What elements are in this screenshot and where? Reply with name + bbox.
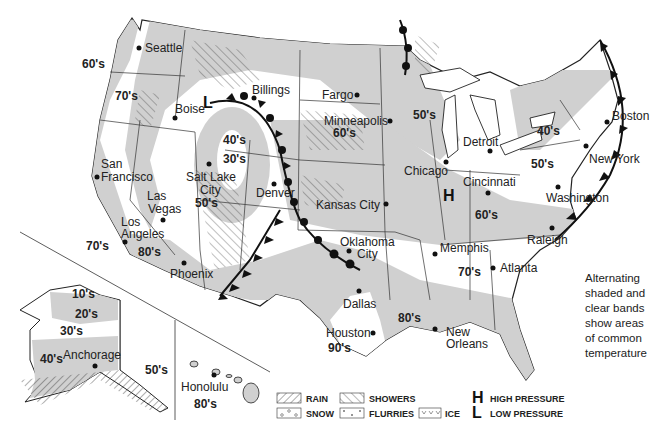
temp-label: 30's	[223, 152, 246, 166]
svg-text:Las: Las	[147, 189, 166, 203]
svg-text:City: City	[200, 183, 221, 197]
legend-ice: ICE	[419, 408, 460, 419]
legend-showers: SHOWERS	[340, 393, 416, 404]
legend-high-pressure: H HIGH PRESSURE	[472, 389, 565, 406]
temp-label: 50's	[413, 108, 436, 122]
svg-text:Detroit: Detroit	[463, 135, 499, 149]
svg-text:City: City	[357, 247, 378, 261]
svg-text:Orleans: Orleans	[446, 337, 488, 351]
svg-text:Boise: Boise	[175, 102, 205, 116]
svg-text:Atlanta: Atlanta	[500, 261, 538, 275]
svg-text:Salt Lake: Salt Lake	[186, 170, 236, 184]
svg-text:Anchorage: Anchorage	[63, 348, 121, 362]
temp-label: 50's	[145, 363, 168, 377]
weather-map: Seattle Boise Billings Fargo Minneapolis…	[0, 0, 669, 444]
temp-label: 60's	[333, 126, 356, 140]
temp-label: 20's	[75, 307, 98, 321]
legend-snow: SNOW	[277, 408, 335, 419]
svg-text:ICE: ICE	[445, 409, 460, 419]
svg-text:LOW PRESSURE: LOW PRESSURE	[490, 409, 563, 419]
svg-text:Boston: Boston	[612, 109, 649, 123]
svg-text:Houston: Houston	[326, 326, 371, 340]
svg-text:SNOW: SNOW	[306, 409, 335, 419]
low-pressure-marker: L	[203, 94, 213, 111]
svg-text:Honolulu: Honolulu	[181, 380, 228, 394]
svg-text:Memphis: Memphis	[440, 241, 489, 255]
legend-low-pressure: L LOW PRESSURE	[472, 404, 563, 421]
svg-text:Fargo: Fargo	[322, 88, 354, 102]
svg-text:Francisco: Francisco	[101, 170, 153, 184]
svg-text:San: San	[101, 157, 122, 171]
temp-label: 80's	[138, 245, 161, 259]
city-boston: Boston	[605, 109, 650, 125]
svg-text:SHOWERS: SHOWERS	[369, 394, 416, 404]
temp-label: 60's	[82, 57, 105, 71]
temp-label: 60's	[475, 208, 498, 222]
city-memphis: Memphis	[433, 241, 489, 257]
svg-text:Billings: Billings	[252, 83, 290, 97]
map-note: Alternating shaded and clear bands show …	[585, 271, 669, 361]
svg-text:RAIN: RAIN	[306, 394, 328, 404]
temp-label: 40's	[223, 133, 246, 147]
rain-swatch-icon	[277, 393, 301, 403]
high-pressure-marker: H	[443, 187, 455, 204]
svg-text:Denver: Denver	[256, 186, 295, 200]
city-houston: Houston	[326, 326, 376, 340]
legend-flurries: FLURRIES	[340, 408, 414, 419]
svg-text:New York: New York	[589, 152, 641, 166]
showers-swatch-icon	[340, 393, 364, 403]
temp-label: 40's	[537, 124, 560, 138]
temp-label: 40's	[40, 352, 63, 366]
temp-label: 90's	[328, 341, 351, 355]
svg-text:Cincinnati: Cincinnati	[463, 175, 516, 189]
city-kansas-city: Kansas City	[316, 198, 389, 212]
svg-text:Raleigh: Raleigh	[527, 233, 568, 247]
temp-label: 70's	[115, 89, 138, 103]
svg-text:Kansas City: Kansas City	[316, 198, 380, 212]
legend: RAIN SHOWERS SNOW FLURRIES ICE H HIGH	[277, 389, 565, 421]
svg-text:FLURRIES: FLURRIES	[369, 409, 414, 419]
flurries-swatch-icon	[340, 408, 364, 418]
temp-label: 80's	[194, 397, 217, 411]
svg-text:Angeles: Angeles	[121, 227, 164, 241]
svg-text:Dallas: Dallas	[343, 297, 376, 311]
temp-label: 30's	[60, 324, 83, 338]
legend-rain: RAIN	[277, 393, 328, 404]
city-honolulu: Honolulu	[181, 373, 228, 395]
svg-text:Phoenix: Phoenix	[170, 267, 213, 281]
low-pressure-icon: L	[472, 404, 482, 421]
temp-label: 50's	[195, 196, 218, 210]
temp-label: 70's	[86, 239, 109, 253]
temp-label: 80's	[398, 311, 421, 325]
svg-text:Chicago: Chicago	[404, 164, 448, 178]
svg-text:Washington: Washington	[546, 191, 609, 205]
svg-text:HIGH PRESSURE: HIGH PRESSURE	[490, 394, 565, 404]
temp-label: 70's	[458, 265, 481, 279]
svg-text:Seattle: Seattle	[145, 41, 183, 55]
svg-text:Vegas: Vegas	[148, 202, 181, 216]
temp-label: 10's	[72, 287, 95, 301]
temp-label: 50's	[531, 157, 554, 171]
